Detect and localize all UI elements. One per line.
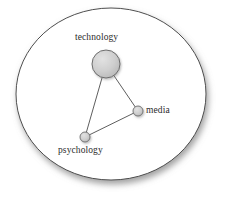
node-media[interactable] bbox=[133, 106, 143, 116]
node-label-psychology: psychology bbox=[58, 146, 103, 156]
node-label-media: media bbox=[146, 106, 170, 116]
diagram-canvas: technology media psychology bbox=[0, 0, 225, 205]
graph-svg bbox=[0, 0, 225, 205]
node-label-technology: technology bbox=[75, 33, 118, 43]
node-psychology[interactable] bbox=[80, 132, 90, 142]
node-technology[interactable] bbox=[92, 50, 120, 78]
